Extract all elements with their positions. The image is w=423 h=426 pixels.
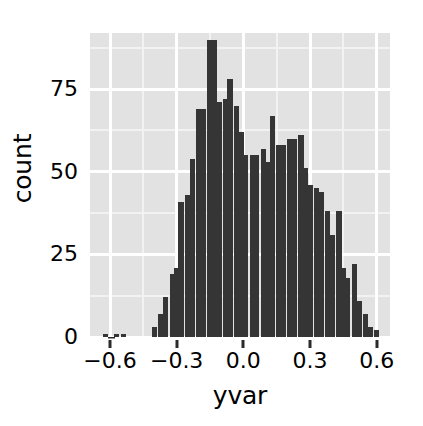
histogram-bar	[270, 116, 275, 337]
plot-panel	[90, 33, 390, 337]
histogram-bar	[227, 79, 232, 337]
histogram-bar	[178, 202, 183, 337]
histogram-bar	[374, 330, 379, 337]
gridline-major-horizontal	[90, 88, 390, 91]
histogram-bar	[201, 109, 206, 337]
gridline-minor-horizontal	[90, 47, 390, 49]
x-axis-tick-mark	[375, 340, 378, 348]
gridline-minor-vertical	[142, 33, 144, 337]
histogram-bar	[152, 327, 157, 337]
histogram-bar	[330, 235, 335, 337]
histogram-bar	[190, 159, 195, 337]
x-axis-tick-label: 0.3	[293, 350, 328, 372]
x-axis-tick-label: 0.6	[359, 350, 394, 372]
y-axis-tick-label: 25	[34, 243, 78, 265]
histogram-bar	[318, 192, 323, 337]
y-axis-tick-label: 50	[34, 161, 78, 183]
histogram-bar	[281, 145, 286, 337]
histogram-bar	[345, 278, 350, 337]
x-axis-tick-mark	[242, 340, 245, 348]
histogram-bar	[307, 185, 312, 337]
gridline-major-vertical	[375, 33, 378, 337]
y-axis-tick-labels: 0255075	[28, 0, 78, 426]
histogram-figure: count 0255075 −0.6−0.30.00.30.6 yvar	[0, 0, 423, 426]
x-axis-tick-mark	[109, 340, 112, 348]
histogram-bar	[254, 155, 259, 337]
histogram-bar	[163, 297, 168, 337]
histogram-bar	[292, 139, 297, 337]
x-axis-title-text: yvar	[213, 381, 267, 410]
histogram-bar	[243, 155, 248, 337]
x-axis-tick-labels: −0.6−0.30.00.30.6	[90, 350, 390, 380]
x-axis-tick-label: −0.3	[150, 350, 203, 372]
x-axis-tick-mark	[309, 340, 312, 348]
histogram-bar	[367, 327, 372, 337]
x-axis-tick-mark	[175, 340, 178, 348]
histogram-bar	[356, 301, 361, 337]
gridline-major-vertical	[109, 33, 112, 337]
histogram-bar	[216, 102, 221, 337]
y-axis-tick-label: 0	[34, 326, 78, 348]
y-axis-tick-label: 75	[34, 78, 78, 100]
x-axis-tick-label: 0.0	[226, 350, 261, 372]
x-axis-title: yvar	[90, 381, 390, 410]
x-axis-tick-label: −0.6	[83, 350, 136, 372]
